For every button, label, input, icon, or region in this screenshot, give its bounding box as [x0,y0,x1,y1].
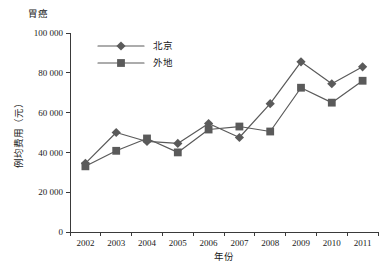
legend-marker-beijing [116,41,125,50]
x-tick-label: 2002 [76,238,94,248]
data-point-waidi-2011 [359,77,367,85]
legend-label-waidi: 外地 [153,57,173,68]
x-tick-label: 2003 [107,238,126,248]
y-tick-label: 0 [59,227,64,237]
data-point-waidi-2008 [266,128,274,136]
data-point-waidi-2005 [174,149,182,157]
x-tick-label: 2004 [138,238,157,248]
x-tick-label: 2008 [261,238,280,248]
data-point-beijing-2011 [358,62,367,71]
data-point-waidi-2006 [205,126,213,134]
x-tick-label: 2010 [323,238,342,248]
chart-figure: 胃癌020 00040 00060 00080 000100 000200220… [0,0,386,272]
data-point-beijing-2009 [296,57,305,66]
chart-title: 胃癌 [28,8,48,19]
y-tick-label: 40 000 [38,148,63,158]
series-line-waidi [85,81,362,167]
x-tick-label: 2007 [230,238,249,248]
data-point-waidi-2004 [143,135,151,143]
y-tick-label: 100 000 [34,28,64,38]
data-point-beijing-2005 [173,139,182,148]
data-point-beijing-2010 [327,79,336,88]
data-point-waidi-2009 [297,84,305,92]
x-axis-title: 年份 [214,251,234,262]
x-tick-label: 2009 [292,238,311,248]
data-point-waidi-2010 [328,99,336,107]
legend-marker-waidi [117,59,125,67]
data-point-waidi-2007 [236,123,244,131]
data-point-waidi-2002 [82,162,90,170]
x-tick-label: 2005 [169,238,188,248]
line-chart: 胃癌020 00040 00060 00080 000100 000200220… [0,0,386,272]
data-point-waidi-2003 [112,147,120,155]
y-tick-label: 20 000 [38,187,63,197]
x-tick-label: 2006 [200,238,219,248]
y-axis-title: 例均费用（元） [13,98,24,168]
y-tick-label: 80 000 [38,68,63,78]
x-tick-label: 2011 [354,238,372,248]
y-tick-label: 60 000 [38,108,63,118]
series-line-beijing [85,62,362,163]
legend-label-beijing: 北京 [153,40,173,51]
